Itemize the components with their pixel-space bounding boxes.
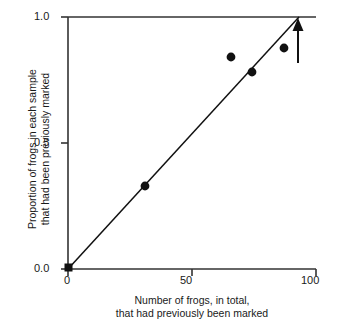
y-tick-label-1.0: 1.0 (34, 11, 49, 22)
population-estimate-arrow-head (293, 18, 304, 31)
x-tick-label-100: 100 (301, 275, 319, 286)
x-axis-title-line-1: Number of frogs, in total, (52, 294, 332, 307)
data-point (227, 53, 236, 62)
data-point (141, 182, 150, 191)
y-axis-title-line-1: Proportion of frogs in each sample (26, 24, 39, 274)
x-axis-title-line-2: that had previously been marked (52, 307, 332, 320)
x-tick-label-50: 50 (180, 275, 192, 286)
frog-mark-recapture-chart: 1.0 0.5 0.0 0 50 100 Number of frogs, in… (0, 0, 344, 332)
x-tick-label-0: 0 (64, 275, 70, 286)
data-point (280, 44, 289, 53)
data-point-origin (65, 264, 73, 272)
fit-line (68, 17, 299, 269)
y-axis-title-line-2: that had been previously marked (39, 24, 52, 274)
data-point (248, 68, 257, 77)
y-axis-title: Proportion of frogs in each sample that … (26, 24, 52, 274)
x-axis-title: Number of frogs, in total, that had prev… (52, 294, 332, 320)
